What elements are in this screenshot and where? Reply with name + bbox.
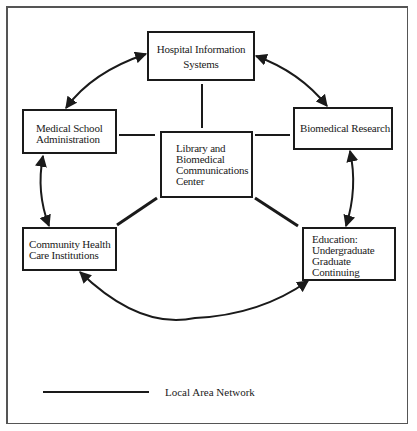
node-education: Education: Undergraduate Graduate Contin… xyxy=(302,227,396,281)
node-label: Biomedical Research xyxy=(300,123,391,134)
arc-community-education xyxy=(80,272,308,320)
node-hospital-information-systems: Hospital Information Systems xyxy=(147,31,255,81)
lan-link-library-education xyxy=(255,198,298,226)
node-library-biomedical-communications-center: Library and Biomedical Communications Ce… xyxy=(160,131,253,198)
arc-hospital-medical xyxy=(66,54,146,108)
legend-lan-label: Local Area Network xyxy=(165,386,255,398)
node-label: Medical School Administration xyxy=(36,123,115,145)
node-label: Community Health Care Institutions xyxy=(29,239,115,261)
legend-lan-line-sample xyxy=(43,391,149,393)
node-community-health-care-institutions: Community Health Care Institutions xyxy=(22,227,117,271)
arc-biomedical-education xyxy=(346,151,353,226)
arc-hospital-biomedical xyxy=(256,56,327,106)
node-label: Library and Biomedical Communications Ce… xyxy=(176,143,251,187)
node-label: Hospital Information Systems xyxy=(149,42,253,72)
node-label: Education: Undergraduate Graduate Contin… xyxy=(312,234,394,278)
node-biomedical-research: Biomedical Research xyxy=(293,107,393,150)
lan-link-library-community xyxy=(117,198,157,225)
node-medical-school-administration: Medical School Administration xyxy=(22,109,117,154)
arc-medical-community xyxy=(41,156,49,226)
